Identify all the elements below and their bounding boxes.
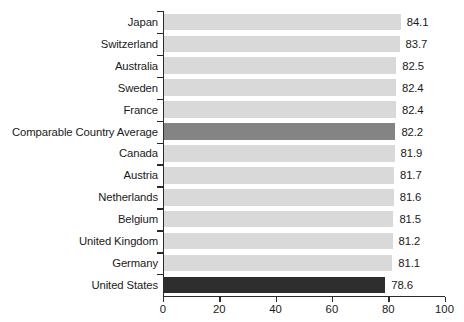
bar [164,277,385,294]
category-label: Germany [112,257,158,269]
bar-value-label: 82.5 [402,60,424,72]
bar [164,189,394,206]
bar [164,36,400,53]
bar [164,79,396,96]
x-axis-tick-label: 60 [326,303,339,315]
bar-row: Germany81.1 [0,252,464,274]
bar [164,233,393,250]
bar-row: Japan84.1 [0,11,464,33]
bar-rows: Japan84.1Switzerland83.7Australia82.5Swe… [0,11,464,296]
x-axis-tick-label: 40 [269,303,282,315]
bar-value-label: 81.9 [401,147,423,159]
x-axis-tick [163,297,164,302]
bar-row: United Kingdom81.2 [0,230,464,252]
x-axis-tick-label: 20 [213,303,226,315]
category-label: Belgium [118,213,158,225]
bar-row: France82.4 [0,99,464,121]
bar-row: Switzerland83.7 [0,33,464,55]
bar [164,255,392,272]
x-axis-tick-label: 0 [160,303,166,315]
category-label: Switzerland [101,38,158,50]
bar [164,101,396,118]
y-axis-line [163,11,164,297]
bar [164,211,393,228]
bar-row: Canada81.9 [0,143,464,165]
bar-row: Sweden82.4 [0,77,464,99]
category-label: Sweden [118,82,158,94]
category-label: France [123,104,158,116]
bar-value-label: 81.5 [399,213,421,225]
category-label: United Kingdom [79,235,158,247]
bar-value-label: 81.1 [398,257,420,269]
bar [164,14,401,31]
x-axis-tick [332,297,333,302]
x-axis-tick [388,297,389,302]
bar-row: Comparable Country Average82.2 [0,121,464,143]
x-axis-tick-label: 100 [435,303,454,315]
bar-chart: Japan84.1Switzerland83.7Australia82.5Swe… [0,0,464,322]
category-label: Netherlands [98,191,158,203]
bar-row: Netherlands81.6 [0,186,464,208]
bar-row: Australia82.5 [0,55,464,77]
x-axis-tick [219,297,220,302]
x-axis-tick [276,297,277,302]
x-axis-line [163,296,445,297]
bar [164,167,394,184]
bar-value-label: 84.1 [407,16,429,28]
bar-value-label: 82.4 [402,104,424,116]
bar [164,123,395,140]
category-label: Japan [128,16,158,28]
bar-value-label: 82.2 [401,126,423,138]
category-label: Austria [124,169,158,181]
bar-value-label: 83.7 [406,38,428,50]
category-label: Australia [115,60,158,72]
category-label: Canada [119,147,158,159]
bar [164,145,395,162]
bar-row: United States78.6 [0,274,464,296]
category-label: Comparable Country Average [12,126,158,138]
bar-row: Belgium81.5 [0,208,464,230]
bar-value-label: 82.4 [402,82,424,94]
bar-value-label: 78.6 [391,279,413,291]
bar-value-label: 81.2 [399,235,421,247]
x-axis-tick [445,297,446,302]
bar [164,57,396,74]
bar-value-label: 81.6 [400,191,422,203]
category-label: United States [91,279,158,291]
x-axis-tick-label: 80 [382,303,395,315]
bar-row: Austria81.7 [0,164,464,186]
bar-value-label: 81.7 [400,169,422,181]
